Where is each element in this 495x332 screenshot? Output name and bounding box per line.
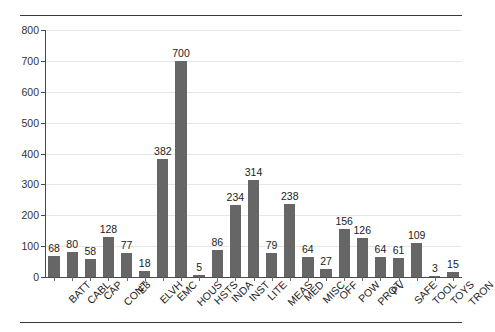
bar-value-label: 68 [45, 243, 63, 254]
bar-value-label: 64 [299, 244, 317, 255]
bar-value-label: 79 [263, 240, 281, 251]
bar-value-label: 64 [371, 244, 389, 255]
y-tick-label: 0 [33, 272, 39, 283]
bar[interactable] [121, 253, 132, 277]
bar-value-label: 15 [444, 259, 462, 270]
bar-value-label: 314 [244, 167, 262, 178]
y-tick-label: 100 [21, 241, 39, 252]
plot-area: 6880581287718382700586234314792386427156… [45, 30, 462, 277]
bar-value-label: 156 [335, 216, 353, 227]
gridline [45, 61, 462, 62]
bar-value-label: 80 [63, 239, 81, 250]
y-tick-label: 300 [21, 179, 39, 190]
y-tick-label: 200 [21, 210, 39, 221]
bar[interactable] [85, 259, 96, 277]
bar-value-label: 27 [317, 256, 335, 267]
bar-value-label: 61 [389, 245, 407, 256]
bar-value-label: 18 [136, 258, 154, 269]
bar[interactable] [302, 257, 313, 277]
bar-value-label: 3 [426, 263, 444, 274]
bar-value-label: 700 [172, 48, 190, 59]
bar-value-label: 77 [118, 240, 136, 251]
bar[interactable] [339, 229, 350, 277]
gridline [45, 30, 462, 31]
bar-value-label: 128 [99, 224, 117, 235]
y-tick-label: 600 [21, 87, 39, 98]
bar[interactable] [48, 256, 59, 277]
gridline [45, 154, 462, 155]
y-tick-label: 500 [21, 118, 39, 129]
gridline [45, 92, 462, 93]
y-tick-label: 700 [21, 56, 39, 67]
bar[interactable] [175, 61, 186, 277]
bar-value-label: 109 [408, 230, 426, 241]
bar[interactable] [248, 180, 259, 277]
bar[interactable] [375, 257, 386, 277]
bar[interactable] [320, 269, 331, 277]
top-horizontal-rule [20, 15, 462, 16]
bar[interactable] [212, 250, 223, 277]
y-tick-label: 400 [21, 149, 39, 160]
y-axis-line [45, 30, 46, 277]
gridline [45, 123, 462, 124]
y-axis-ticks: 0100200300400500600700800 [0, 30, 45, 277]
bar[interactable] [357, 238, 368, 277]
bar[interactable] [103, 237, 114, 277]
bar-value-label: 382 [154, 146, 172, 157]
bar[interactable] [411, 243, 422, 277]
bottom-horizontal-rule [20, 322, 462, 323]
bar[interactable] [284, 204, 295, 277]
bar-value-label: 126 [353, 225, 371, 236]
bar[interactable] [67, 252, 78, 277]
bar[interactable] [393, 258, 404, 277]
bar-value-label: 5 [190, 262, 208, 273]
bar-value-label: 86 [208, 237, 226, 248]
bar[interactable] [266, 253, 277, 277]
y-tick-label: 800 [21, 25, 39, 36]
bar[interactable] [157, 159, 168, 277]
bar-value-label: 238 [281, 191, 299, 202]
bar-value-label: 58 [81, 246, 99, 257]
bar[interactable] [230, 205, 241, 277]
bar-value-label: 234 [226, 192, 244, 203]
